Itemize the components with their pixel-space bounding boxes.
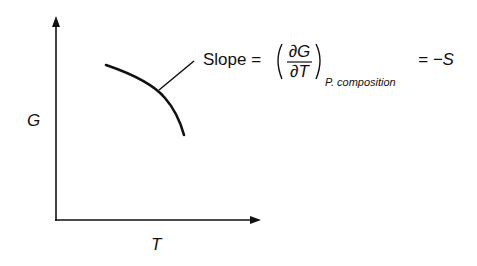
y-axis-label: G [27,111,40,131]
y-axis-arrow-icon [52,16,60,27]
diagram-canvas [0,0,477,266]
subscript-conditions: P. composition [325,76,396,88]
fraction-numerator: ∂G [287,42,312,62]
leader-line [159,61,194,90]
x-axis-arrow-icon [250,216,261,224]
gibbs-curve [106,65,184,135]
x-axis-label: T [151,235,161,255]
slope-label: Slope = [203,50,261,70]
left-paren [278,44,282,79]
fraction-denominator: ∂T [287,62,312,82]
result-label: = −S [418,50,454,70]
right-paren [316,44,320,79]
